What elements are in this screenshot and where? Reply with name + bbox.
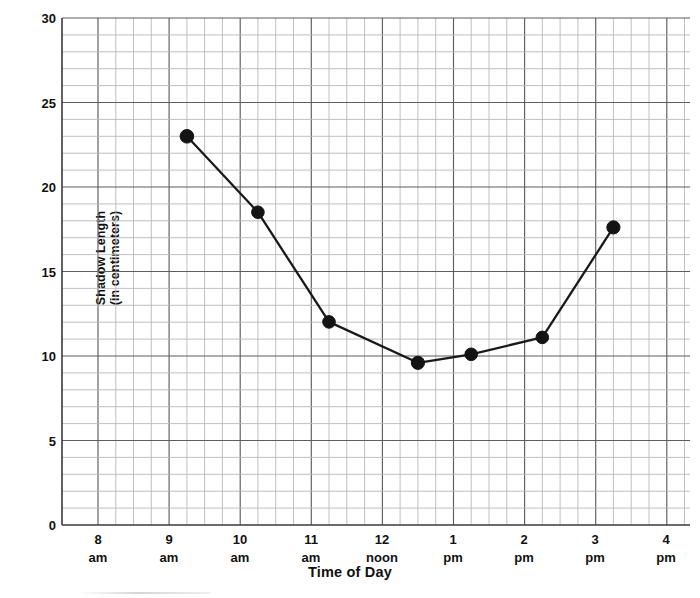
x-tick-label-11am: 11 am bbox=[281, 531, 341, 566]
x-tick-hour: 9 bbox=[139, 531, 199, 549]
x-tick-meridiem: am bbox=[68, 549, 128, 567]
page-edge-artifact bbox=[78, 592, 210, 594]
data-point bbox=[465, 348, 478, 361]
x-tick-label-10am: 10 am bbox=[210, 531, 270, 566]
x-tick-meridiem: pm bbox=[636, 549, 696, 567]
x-tick-hour: 3 bbox=[565, 531, 625, 549]
x-tick-label-8am: 8 am bbox=[68, 531, 128, 566]
data-point bbox=[411, 356, 424, 369]
x-tick-hour: 4 bbox=[636, 531, 696, 549]
x-tick-hour: 10 bbox=[210, 531, 270, 549]
x-tick-label-3pm: 3 pm bbox=[565, 531, 625, 566]
x-axis-title: Time of Day bbox=[230, 564, 470, 580]
data-point bbox=[607, 221, 620, 234]
plot-area bbox=[0, 0, 700, 598]
data-point bbox=[323, 316, 336, 329]
x-tick-label-9am: 9 am bbox=[139, 531, 199, 566]
data-point bbox=[252, 206, 265, 219]
shadow-length-line-chart: Shadow Length (in centimeters) 30 25 20 … bbox=[0, 0, 700, 598]
data-point bbox=[536, 331, 549, 344]
x-tick-hour: 11 bbox=[281, 531, 341, 549]
x-tick-meridiem: pm bbox=[494, 549, 554, 567]
x-tick-hour: 12 bbox=[352, 531, 412, 549]
x-tick-meridiem: pm bbox=[565, 549, 625, 567]
x-tick-hour: 2 bbox=[494, 531, 554, 549]
x-tick-label-2pm: 2 pm bbox=[494, 531, 554, 566]
x-tick-label-1pm: 1 pm bbox=[423, 531, 483, 566]
data-point bbox=[180, 130, 194, 144]
x-tick-meridiem: am bbox=[139, 549, 199, 567]
x-tick-hour: 1 bbox=[423, 531, 483, 549]
x-tick-label-4pm: 4 pm bbox=[636, 531, 696, 566]
x-tick-hour: 8 bbox=[68, 531, 128, 549]
x-tick-label-12noon: 12 noon bbox=[352, 531, 412, 566]
